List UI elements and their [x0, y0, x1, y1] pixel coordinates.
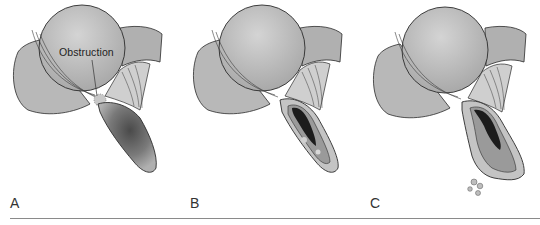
- panel-b: B: [180, 0, 360, 210]
- panel-c: C: [360, 0, 540, 210]
- panel-label-b: B: [190, 195, 199, 211]
- appendix-perforated-illustration: [360, 0, 540, 210]
- appendix-obstruction-illustration: [0, 0, 180, 210]
- obstruction-label: Obstruction: [59, 46, 114, 58]
- panel-label-c: C: [370, 195, 380, 211]
- panel-a: Obstruction A: [0, 0, 180, 210]
- figure-baseline-divider: [10, 218, 540, 219]
- appendix-inflamed-illustration: [180, 0, 360, 210]
- panel-label-a: A: [10, 195, 19, 211]
